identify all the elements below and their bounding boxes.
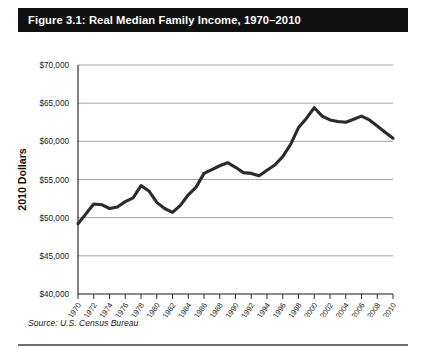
x-tick-label: 2006 <box>350 301 367 317</box>
y-axis-tick-labels: $40,000$45,000$50,000$55,000$60,000$65,0… <box>39 61 69 299</box>
source-note: Source: U.S. Census Bureau <box>28 318 138 328</box>
x-tick-label: 1992 <box>239 301 256 317</box>
x-tick-label: 1990 <box>224 301 241 317</box>
x-tick-label: 1996 <box>271 301 288 317</box>
x-tick-label: 1984 <box>176 301 193 317</box>
y-tick-label: $60,000 <box>39 137 69 146</box>
income-series-line <box>78 108 393 224</box>
x-tick-label: 2002 <box>318 301 335 317</box>
x-tick-label: 1994 <box>255 301 272 317</box>
x-tick-label: 1998 <box>287 301 304 317</box>
y-tick-label: $65,000 <box>39 99 69 108</box>
y-tick-label: $70,000 <box>39 61 69 70</box>
x-tick-label: 2000 <box>302 301 319 317</box>
x-tick-label: 1988 <box>208 301 225 317</box>
x-tick-label: 2010 <box>381 301 398 317</box>
figure-title-bar: Figure 3.1: Real Median Family Income, 1… <box>18 8 408 32</box>
figure-title: Figure 3.1: Real Median Family Income, 1… <box>18 14 301 26</box>
bottom-divider <box>18 344 408 346</box>
y-tick-label: $55,000 <box>39 176 69 185</box>
line-chart-svg: $40,000$45,000$50,000$55,000$60,000$65,0… <box>0 32 426 317</box>
x-tick-label: 1978 <box>129 301 146 317</box>
y-tick-label: $40,000 <box>39 290 69 299</box>
x-axis-tickmarks <box>78 294 393 299</box>
x-tick-label: 1982 <box>161 301 178 317</box>
gridlines <box>78 65 393 256</box>
y-axis-title: 2010 Dollars <box>16 148 28 211</box>
figure-container: Figure 3.1: Real Median Family Income, 1… <box>0 0 426 353</box>
x-tick-label: 1974 <box>98 301 115 317</box>
x-tick-label: 1972 <box>82 301 99 317</box>
x-tick-label: 1970 <box>66 301 83 317</box>
x-tick-label: 1980 <box>145 301 162 317</box>
y-tick-label: $45,000 <box>39 252 69 261</box>
chart-plot-area: $40,000$45,000$50,000$55,000$60,000$65,0… <box>0 32 426 317</box>
x-tick-label: 2004 <box>334 301 351 317</box>
x-tick-label: 1976 <box>113 301 130 317</box>
x-axis-tick-labels: 1970197219741976197819801982198419861988… <box>66 301 398 317</box>
y-tick-label: $50,000 <box>39 214 69 223</box>
x-tick-label: 1986 <box>192 301 209 317</box>
x-tick-label: 2008 <box>365 301 382 317</box>
